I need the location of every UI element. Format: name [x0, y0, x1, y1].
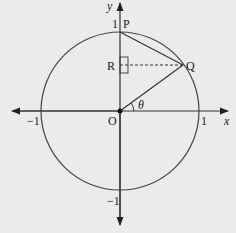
segment-PQ [120, 32, 183, 65]
unit-circle-diagram: y x 1 P R Q O θ −1 1 −1 [0, 0, 236, 233]
label-R: R [107, 59, 115, 73]
y-axis-label: y [106, 0, 113, 13]
angle-theta-label: θ [138, 98, 144, 112]
tick-y-neg: −1 [107, 194, 120, 208]
tick-x-neg: −1 [27, 114, 40, 128]
x-axis-label: x [223, 114, 230, 128]
segment-OQ [120, 65, 183, 111]
label-O: O [108, 114, 117, 128]
label-P: P [123, 17, 130, 31]
origin-dot [118, 109, 123, 114]
tick-x-pos: 1 [201, 114, 207, 128]
angle-arc [131, 103, 134, 111]
label-Q: Q [186, 59, 195, 73]
tick-y-pos: 1 [112, 17, 118, 31]
